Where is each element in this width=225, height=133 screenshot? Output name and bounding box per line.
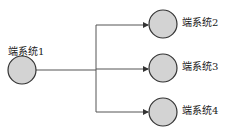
node-1-label: 端系统1	[8, 46, 44, 58]
node-2	[149, 10, 177, 38]
node-4-label: 端系统4	[182, 105, 218, 117]
node-3-label: 端系统3	[182, 61, 218, 73]
node-1	[8, 56, 36, 84]
node-4	[149, 98, 177, 126]
node-2-label: 端系统2	[182, 17, 218, 29]
node-3	[149, 54, 177, 82]
